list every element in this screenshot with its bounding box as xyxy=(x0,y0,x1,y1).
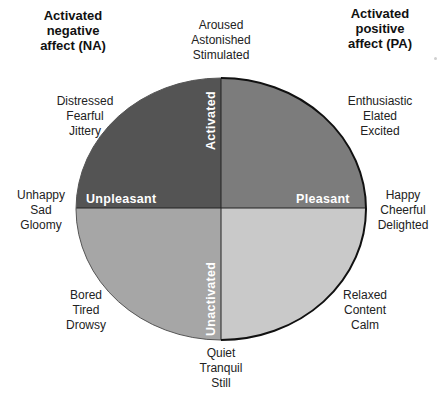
emotion-word: Relaxed xyxy=(330,288,400,303)
cluster-unactivated: Quiet Tranquil Still xyxy=(171,346,271,391)
emotion-word: Aroused xyxy=(146,18,296,33)
emotion-word: Excited xyxy=(320,124,440,139)
emotion-word: Gloomy xyxy=(6,218,76,233)
emotion-word: Tired xyxy=(46,303,126,318)
axis-label-activated: Activated xyxy=(204,91,218,150)
cluster-activated-unpleasant: Distressed Fearful Jittery xyxy=(30,94,140,139)
cluster-unactivated-pleasant: Relaxed Content Calm xyxy=(330,288,400,333)
emotion-word: Quiet xyxy=(171,346,271,361)
emotion-word: Calm xyxy=(330,318,400,333)
cluster-unactivated-unpleasant: Bored Tired Drowsy xyxy=(46,288,126,333)
cluster-activated: Aroused Astonished Stimulated xyxy=(146,18,296,63)
emotion-word: Fearful xyxy=(30,109,140,124)
emotion-word: Bored xyxy=(46,288,126,303)
emotion-word: Delighted xyxy=(366,218,440,233)
emotion-word: Unhappy xyxy=(6,188,76,203)
emotion-word: Enthusiastic xyxy=(320,94,440,109)
emotion-word: Content xyxy=(330,303,400,318)
emotion-word: Happy xyxy=(366,188,440,203)
emotion-word: Drowsy xyxy=(46,318,126,333)
emotion-word: Tranquil xyxy=(171,361,271,376)
axis-label-pleasant: Pleasant xyxy=(296,192,350,206)
emotion-word: Elated xyxy=(320,109,440,124)
axis-label-unactivated: Unactivated xyxy=(204,262,218,336)
emotion-word: Cheerful xyxy=(366,203,440,218)
cluster-activated-pleasant: Enthusiastic Elated Excited xyxy=(320,94,440,139)
emotion-word: Astonished xyxy=(146,33,296,48)
quadrant-top-right xyxy=(221,70,371,208)
emotion-word: Distressed xyxy=(30,94,140,109)
axis-label-unpleasant: Unpleasant xyxy=(86,192,157,206)
emotion-word: Still xyxy=(171,376,271,391)
cluster-pleasant: Happy Cheerful Delighted xyxy=(366,188,440,233)
emotion-word: Jittery xyxy=(30,124,140,139)
emotion-word: Sad xyxy=(6,203,76,218)
cluster-unpleasant: Unhappy Sad Gloomy xyxy=(6,188,76,233)
quadrant-top-left xyxy=(70,70,221,208)
emotion-word: Stimulated xyxy=(146,48,296,63)
